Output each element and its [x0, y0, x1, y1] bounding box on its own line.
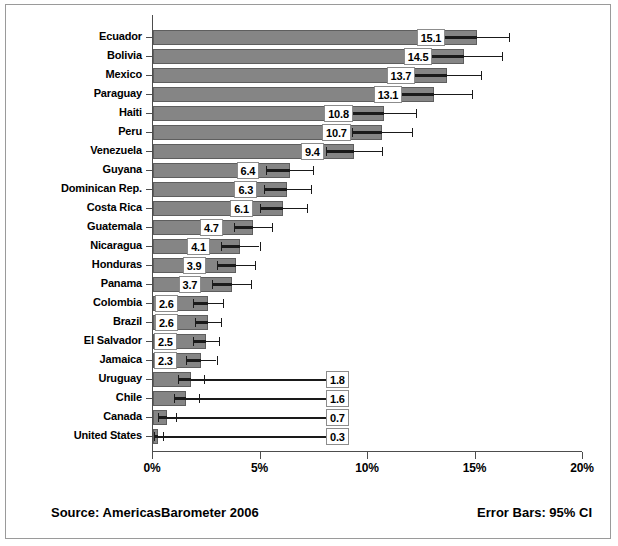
x-axis-tick-label: 20%: [552, 461, 612, 475]
error-bar-cap-high: [313, 166, 314, 175]
bar-row: Paraguay13.1: [6, 85, 612, 105]
error-bar-lower: [193, 340, 206, 343]
error-bar-cap-low: [193, 299, 194, 308]
error-bar-lower: [352, 131, 382, 134]
error-bar-cap-low: [221, 242, 222, 251]
category-tick: [146, 151, 152, 152]
error-bar-upper: [447, 75, 481, 76]
error-bar-upper: [464, 56, 503, 57]
category-label: Peru: [6, 125, 142, 137]
error-bar-upper: [434, 94, 473, 95]
error-bar-lower: [234, 226, 253, 229]
error-bar-upper: [232, 284, 251, 285]
error-bar-upper: [208, 303, 223, 304]
value-label: 2.5: [154, 333, 177, 350]
category-label: Honduras: [6, 258, 142, 270]
bar-row: Bolivia14.5: [6, 47, 612, 67]
category-label: Chile: [6, 391, 142, 403]
category-tick: [146, 56, 152, 57]
value-label: 1.6: [326, 390, 349, 407]
bar-row: Chile1.6: [6, 389, 612, 409]
error-bar-cap-low: [186, 356, 187, 365]
category-tick: [146, 303, 152, 304]
category-tick: [146, 341, 152, 342]
bar[interactable]: [153, 144, 354, 159]
error-bar-lower: [264, 188, 288, 191]
value-label: 4.7: [200, 219, 223, 236]
bar-row: Haiti10.8: [6, 104, 612, 124]
x-axis-tick: [582, 452, 583, 459]
error-bar-cap-high: [416, 109, 417, 118]
value-leader-line: [182, 398, 326, 400]
category-tick: [146, 379, 152, 380]
category-label: Venezuela: [6, 144, 142, 156]
error-bar-upper: [382, 132, 412, 133]
value-label: 13.1: [374, 86, 403, 103]
category-label: Canada: [6, 410, 142, 422]
bar-row: Dominican Rep.6.3: [6, 180, 612, 200]
x-axis-tick: [152, 452, 153, 459]
category-tick: [146, 284, 152, 285]
error-bar-lower: [326, 150, 354, 153]
error-bar-upper: [477, 37, 509, 38]
category-label: Costa Rica: [6, 201, 142, 213]
error-bar-lower: [212, 283, 231, 286]
bar-row: Costa Rica6.1: [6, 199, 612, 219]
category-label: Guyana: [6, 163, 142, 175]
error-bar-cap-high: [221, 318, 222, 327]
category-tick: [146, 398, 152, 399]
error-bar-upper: [290, 170, 314, 171]
value-label: 10.8: [324, 105, 353, 122]
category-label: Brazil: [6, 315, 142, 327]
category-label: Bolivia: [6, 49, 142, 61]
bar-row: Ecuador15.1: [6, 28, 612, 48]
error-bar-upper: [384, 113, 416, 114]
error-bar-lower: [266, 169, 290, 172]
category-label: Guatemala: [6, 220, 142, 232]
category-tick: [146, 246, 152, 247]
error-bar-cap-high: [502, 52, 503, 61]
category-tick: [146, 132, 152, 133]
category-label: Ecuador: [6, 30, 142, 42]
category-label: El Salvador: [6, 334, 142, 346]
category-tick: [146, 265, 152, 266]
x-axis-tick-label: 5%: [230, 461, 290, 475]
bar-row: Uruguay1.8: [6, 370, 612, 390]
bar-row: Colombia2.6: [6, 294, 612, 314]
error-bar-cap-low: [266, 166, 267, 175]
error-bar-cap-high: [481, 71, 482, 80]
error-bar-upper: [208, 322, 221, 323]
value-label: 10.7: [322, 124, 351, 141]
error-bar-lower: [444, 36, 476, 39]
bar-row: Panama3.7: [6, 275, 612, 295]
error-bar-cap-high: [509, 33, 510, 42]
value-label: 14.5: [404, 48, 433, 65]
error-bar-cap-high: [472, 90, 473, 99]
category-tick: [146, 322, 152, 323]
error-bar-lower: [412, 74, 446, 77]
error-bar-cap-low: [217, 261, 218, 270]
error-bar-cap-low: [260, 204, 261, 213]
error-bar-cap-high: [260, 242, 261, 251]
bar-row: Peru10.7: [6, 123, 612, 143]
value-label: 3.7: [179, 276, 202, 293]
x-axis-tick: [475, 452, 476, 459]
error-bar-upper: [283, 208, 307, 209]
category-label: Jamaica: [6, 353, 142, 365]
value-label: 9.4: [301, 143, 324, 160]
category-tick: [146, 189, 152, 190]
category-tick: [146, 227, 152, 228]
x-axis-tick-label: 15%: [445, 461, 505, 475]
error-bar-cap-low: [212, 280, 213, 289]
error-bar-upper: [206, 341, 219, 342]
value-label: 0.3: [326, 428, 349, 445]
bar-row: Guatemala4.7: [6, 218, 612, 238]
category-label: Mexico: [6, 68, 142, 80]
category-tick: [146, 37, 152, 38]
error-bar-cap-low: [352, 128, 353, 137]
error-bar-lower: [217, 264, 236, 267]
error-bars-note: Error Bars: 95% CI: [477, 505, 592, 520]
category-label: Uruguay: [6, 372, 142, 384]
error-bar-cap-low: [264, 185, 265, 194]
category-tick: [146, 208, 152, 209]
